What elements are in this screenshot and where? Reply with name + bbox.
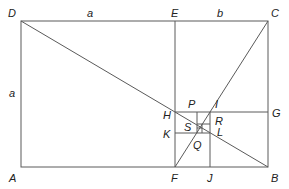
label-length-a-top: a	[87, 7, 93, 19]
label-I: I	[215, 98, 218, 110]
label-S: S	[184, 121, 192, 133]
label-E: E	[171, 7, 179, 19]
label-H: H	[163, 109, 171, 121]
label-K: K	[163, 128, 171, 140]
diagonal-CF	[175, 21, 268, 167]
label-length-a-left: a	[9, 87, 15, 99]
label-L: L	[217, 126, 223, 138]
label-C: C	[271, 7, 279, 19]
label-length-b: b	[217, 7, 223, 19]
label-J: J	[206, 172, 213, 184]
diagonal-DB	[21, 21, 268, 167]
label-G: G	[272, 107, 281, 119]
label-A: A	[8, 172, 16, 184]
label-D: D	[8, 7, 16, 19]
label-B: B	[271, 172, 278, 184]
label-Q: Q	[193, 139, 202, 151]
golden-rectangle-diagram: D a E b C a A F J B H G K P I R S L Q	[0, 0, 289, 189]
label-F: F	[171, 172, 179, 184]
label-P: P	[188, 98, 196, 110]
